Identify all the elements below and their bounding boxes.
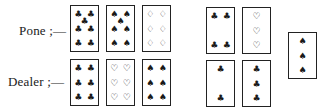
spade-pip-icon: ♠ [146,78,155,87]
club-pip-icon: ♣ [252,79,261,88]
heart-pip-icon: ♡ [110,78,119,87]
spade-pip-icon: ♠ [122,25,131,34]
club-pip-icon: ♣ [86,92,95,101]
diamond-pip-icon: ♢ [146,24,155,33]
club-pip-icon: ♣ [252,93,261,102]
club-pip-icon: ♣ [210,12,219,21]
spade-pip-icon: ♠ [158,78,167,87]
club-pip-icon: ♣ [74,38,83,47]
spade-pip-icon: ♠ [298,51,307,60]
diamond-pip-icon: ♢ [146,38,155,47]
diamond-pip-icon: ♢ [158,24,167,33]
card-6-clubs: ♣♣♣♣♣♣ [70,59,99,106]
club-pip-icon: ♣ [74,64,83,73]
spade-pip-icon: ♠ [298,65,307,74]
club-pip-icon: ♣ [74,92,83,101]
club-pip-icon: ♣ [222,12,231,21]
diamond-pip-icon: ♢ [146,10,155,19]
spade-pip-icon: ♠ [110,25,119,34]
spade-pip-icon: ♠ [158,64,167,73]
club-pip-icon: ♣ [74,25,83,34]
club-pip-icon: ♣ [210,40,219,49]
heart-pip-icon: ♡ [122,64,131,73]
club-pip-icon: ♣ [216,93,225,102]
spade-pip-icon: ♠ [146,92,155,101]
diamond-pip-icon: ♢ [158,10,167,19]
card-4-clubs: ♣♣♣♣ [206,7,235,54]
club-pip-icon: ♣ [86,25,95,34]
card-2-clubs: ♣♣ [206,60,235,107]
card-7-clubs: ♣♣♣♣♣♣♣ [70,5,99,52]
heart-pip-icon: ♡ [110,64,119,73]
card-6-diamonds: ♢♢♢♢♢♢ [142,5,171,52]
starter-card-3-spades: ♠♠♠ [288,32,317,79]
club-pip-icon: ♣ [86,64,95,73]
spade-pip-icon: ♠ [122,38,131,47]
card-3-clubs: ♣♣♣ [242,60,271,107]
club-pip-icon: ♣ [222,40,231,49]
heart-pip-icon: ♡ [122,78,131,87]
club-pip-icon: ♣ [74,78,83,87]
heart-pip-icon: ♡ [110,92,119,101]
club-pip-icon: ♣ [86,78,95,87]
card-6-hearts: ♡♡♡♡♡♡ [106,59,135,106]
card-3-hearts: ♡♡♡ [242,7,271,54]
heart-pip-icon: ♡ [122,92,131,101]
heart-pip-icon: ♡ [252,40,261,49]
dealer-label: Dealer ;— [8,74,64,90]
spade-pip-icon: ♠ [146,64,155,73]
spade-pip-icon: ♠ [110,38,119,47]
club-pip-icon: ♣ [252,65,261,74]
card-6-spades: ♠♠♠♠♠♠ [142,59,171,106]
heart-pip-icon: ♡ [252,26,261,35]
card-7-spades: ♠♠♠♠♠♠♠ [106,5,135,52]
club-pip-icon: ♣ [216,65,225,74]
diamond-pip-icon: ♢ [158,38,167,47]
spade-pip-icon: ♠ [158,92,167,101]
pone-label: Pone ;— [19,23,66,39]
spade-pip-icon: ♠ [298,37,307,46]
club-pip-icon: ♣ [86,38,95,47]
heart-pip-icon: ♡ [252,12,261,21]
